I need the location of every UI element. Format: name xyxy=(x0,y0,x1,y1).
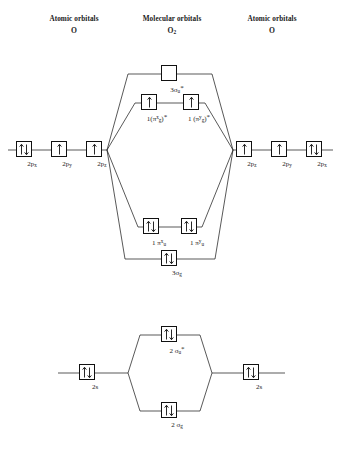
orbital-box[interactable] xyxy=(236,141,252,157)
arrow-pair-icon xyxy=(163,404,175,417)
orbital-label: 2s xyxy=(56,382,134,392)
orbital-label: 2 σu* xyxy=(138,344,216,357)
orbital-box[interactable] xyxy=(243,364,259,380)
orbital-box[interactable] xyxy=(16,141,32,157)
arrow-pair-icon xyxy=(308,143,320,156)
electron-arrows-up-down xyxy=(162,251,176,265)
electron-arrows-up xyxy=(184,95,198,109)
header-right-title: Atomic orbitals xyxy=(247,15,296,23)
line-left-2s-to-2sigma-g xyxy=(128,373,140,411)
orbital-box[interactable] xyxy=(161,250,177,266)
orbital-box[interactable] xyxy=(161,326,177,342)
orbital-box[interactable] xyxy=(79,364,95,380)
header-left-atomic-orbitals: Atomic orbitals O xyxy=(22,14,126,36)
orbital-box[interactable] xyxy=(161,65,177,81)
header-mid-species: O2 xyxy=(120,26,224,37)
orbital-label: 2pz xyxy=(63,159,141,170)
antibonding-star: * xyxy=(181,345,185,353)
electron-arrows-up xyxy=(52,142,66,156)
mo-diagram-root: Atomic orbitals O Molecular orbitals O2 … xyxy=(0,0,341,452)
orbital-label: 2s xyxy=(220,382,298,392)
arrow-pair-icon xyxy=(183,220,195,233)
orbital-label: 1 (πyg)* xyxy=(160,112,238,125)
orbital-box[interactable] xyxy=(86,141,102,157)
orbital-label: 1 πyu xyxy=(158,236,236,249)
electron-arrows-up xyxy=(87,142,101,156)
electron-arrows-up xyxy=(272,142,286,156)
arrow-pair-icon xyxy=(245,366,257,379)
arrow-pair-icon xyxy=(163,328,175,341)
orbital-box[interactable] xyxy=(306,141,322,157)
header-left-species: O xyxy=(22,26,126,36)
arrow-pair-icon xyxy=(18,143,30,156)
line-left-to-1pi-g xyxy=(107,103,135,150)
header-molecular-orbitals: Molecular orbitals O2 xyxy=(120,14,224,37)
line-right-2s-to-2sigma-g xyxy=(200,373,212,411)
electron-arrows-up-down xyxy=(182,219,196,233)
orbital-box[interactable] xyxy=(181,218,197,234)
arrow-pair-icon xyxy=(163,252,175,265)
header-right-species: O xyxy=(220,26,324,36)
electron-arrows-up xyxy=(237,142,251,156)
antibonding-star: * xyxy=(207,113,211,121)
header-right-atomic-orbitals: Atomic orbitals O xyxy=(220,14,324,36)
electron-arrows-up-down xyxy=(17,142,31,156)
orbital-box[interactable] xyxy=(141,94,157,110)
header-mid-title: Molecular orbitals xyxy=(143,15,202,23)
electron-arrows-up-down xyxy=(162,403,176,417)
orbital-box[interactable] xyxy=(143,218,159,234)
header-left-title: Atomic orbitals xyxy=(49,15,98,23)
orbital-label: 2 σg xyxy=(138,420,216,431)
arrow-up-icon xyxy=(56,143,63,156)
electron-arrows-up-down xyxy=(80,365,94,379)
arrow-pair-icon xyxy=(145,220,157,233)
arrow-up-icon xyxy=(91,143,98,156)
antibonding-star: * xyxy=(180,84,184,92)
electron-arrows-none xyxy=(162,66,176,80)
arrow-up-icon xyxy=(241,143,248,156)
orbital-label: 3σg xyxy=(138,268,216,279)
arrow-pair-icon xyxy=(81,366,93,379)
orbital-box[interactable] xyxy=(183,94,199,110)
orbital-box[interactable] xyxy=(271,141,287,157)
orbital-box[interactable] xyxy=(161,402,177,418)
orbital-label: 2px xyxy=(283,159,341,170)
arrow-up-icon xyxy=(188,96,195,109)
electron-arrows-up xyxy=(142,95,156,109)
line-right-to-1pi-g xyxy=(205,103,233,150)
arrow-up-icon xyxy=(146,96,153,109)
electron-arrows-up-down xyxy=(144,219,158,233)
electron-arrows-up-down xyxy=(162,327,176,341)
electron-arrows-up-down xyxy=(307,142,321,156)
arrow-up-icon xyxy=(276,143,283,156)
orbital-box[interactable] xyxy=(51,141,67,157)
header-mid-species-subscript: 2 xyxy=(174,29,177,35)
electron-arrows-up-down xyxy=(244,365,258,379)
